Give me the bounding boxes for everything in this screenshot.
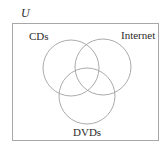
internet-set-circle	[75, 39, 131, 95]
internet-set-label: Internet	[121, 29, 155, 41]
venn-diagram	[0, 0, 168, 147]
dvds-set-label: DVDs	[73, 126, 101, 138]
cds-set-label: CDs	[29, 30, 49, 42]
universe-label: U	[21, 7, 30, 19]
